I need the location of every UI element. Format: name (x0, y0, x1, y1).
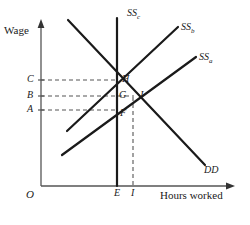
curve-label-ssc-base: SS (127, 7, 137, 18)
wage-hours-supply-demand-figure: Wage Hours worked O C B A E I SSc SSb SS… (0, 0, 250, 225)
y-tick-label-b: B (27, 90, 33, 100)
point-label-g: G (119, 90, 126, 100)
point-label-f: F (120, 108, 126, 118)
demand-curve-dd (68, 20, 205, 165)
x-axis-arrowhead (226, 183, 235, 190)
curve-label-ssb: SSb (181, 22, 195, 35)
curve-label-ssa-sub: a (209, 57, 213, 65)
curve-label-ssb-sub: b (191, 27, 195, 35)
y-tick-label-a: A (27, 104, 33, 114)
curve-label-ssa-base: SS (199, 51, 209, 62)
x-axis-label: Hours worked (160, 190, 223, 201)
y-tick-label-c: C (27, 74, 34, 84)
curve-label-ssc: SSc (127, 8, 140, 21)
origin-label: O (26, 189, 34, 200)
x-tick-label-i: I (131, 188, 134, 198)
y-axis-label: Wage (4, 25, 29, 36)
curve-label-ssa: SSa (199, 52, 213, 65)
curve-label-dd: DD (204, 165, 218, 175)
curve-label-ssc-sub: c (137, 13, 140, 21)
point-label-j: J (139, 90, 143, 100)
x-tick-label-e: E (114, 188, 120, 198)
curve-label-ssb-base: SS (181, 21, 191, 32)
point-label-h: H (122, 74, 129, 84)
y-axis-arrowhead (38, 19, 45, 28)
